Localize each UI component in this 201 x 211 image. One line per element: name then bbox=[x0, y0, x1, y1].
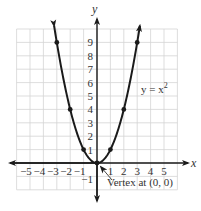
y-tick-label: 3 bbox=[88, 117, 94, 129]
x-axis-label: x bbox=[190, 156, 197, 170]
y-tick-label: 6 bbox=[88, 77, 94, 89]
y-tick-label: 5 bbox=[88, 90, 94, 102]
parabola-chart: x y −5−4−3−2−112345 −1123456789 y = x2 V… bbox=[0, 0, 201, 211]
x-tick-label: −5 bbox=[20, 165, 32, 177]
y-tick-label: 8 bbox=[88, 50, 94, 62]
y-tick-label: 4 bbox=[88, 103, 94, 115]
function-label-base: y = x bbox=[141, 83, 164, 95]
data-point bbox=[108, 147, 113, 152]
vertex-annotation: Vertex at (0, 0) bbox=[107, 176, 173, 189]
function-label: y = x2 bbox=[141, 81, 168, 95]
data-point bbox=[121, 107, 126, 112]
y-tick-label: 9 bbox=[88, 36, 94, 48]
data-point bbox=[81, 147, 86, 152]
y-tick-label: −1 bbox=[81, 173, 93, 185]
x-tick-label: −4 bbox=[34, 165, 46, 177]
data-point bbox=[68, 107, 73, 112]
data-point bbox=[54, 40, 59, 45]
y-tick-label: 2 bbox=[88, 130, 94, 142]
data-point bbox=[135, 40, 140, 45]
function-label-exponent: 2 bbox=[164, 81, 168, 90]
x-tick-label: −2 bbox=[60, 165, 72, 177]
x-tick-label: −3 bbox=[47, 165, 59, 177]
y-axis-label: y bbox=[91, 2, 98, 16]
data-point bbox=[95, 161, 100, 166]
y-tick-label: 7 bbox=[88, 63, 94, 75]
y-tick-label: 1 bbox=[88, 144, 94, 156]
